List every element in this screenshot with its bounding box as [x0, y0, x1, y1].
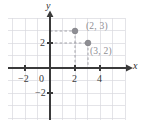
x-axis-name: x — [133, 61, 137, 71]
plot-canvas — [0, 0, 145, 131]
y-axis-name: y — [46, 1, 50, 11]
x-tick-label-0: 0 — [39, 74, 44, 84]
y-tick-label-neg2: −2 — [35, 88, 46, 98]
coordinate-plane-figure: x y −2 0 2 4 2 −2 (2, 3) (3, 2) — [0, 0, 145, 131]
point-label-2-3: (2, 3) — [86, 22, 108, 32]
x-axis — [8, 65, 133, 72]
x-tick-label-4: 4 — [97, 74, 102, 84]
data-point-marker-2-3 — [72, 28, 78, 34]
y-tick-label-2: 2 — [40, 38, 45, 48]
point-label-3-2: (3, 2) — [90, 47, 112, 57]
y-axis — [47, 11, 54, 121]
x-tick-label-2: 2 — [72, 74, 77, 84]
x-tick-label-neg2: −2 — [18, 74, 29, 84]
